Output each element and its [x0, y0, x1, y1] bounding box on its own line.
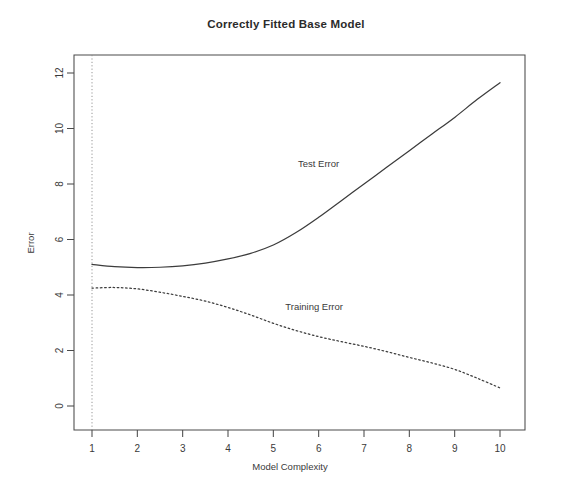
y-tick-label: 12 — [54, 67, 65, 79]
y-axis-ticks: 024681012 — [54, 67, 75, 409]
y-tick-label: 10 — [54, 123, 65, 135]
y-axis-label: Error — [25, 232, 36, 253]
chart-title: Correctly Fitted Base Model — [207, 18, 365, 30]
y-tick-label: 8 — [54, 181, 65, 187]
y-tick-label: 0 — [54, 403, 65, 409]
x-tick-label: 8 — [407, 443, 413, 454]
x-axis-label: Model Complexity — [252, 461, 328, 472]
x-tick-label: 6 — [316, 443, 322, 454]
chart-plot-area: Correctly Fitted Base Model Error Model … — [0, 0, 572, 494]
x-tick-label: 2 — [135, 443, 141, 454]
x-tick-label: 9 — [452, 443, 458, 454]
x-tick-label: 4 — [225, 443, 231, 454]
x-tick-label: 1 — [89, 443, 95, 454]
x-axis-ticks: 12345678910 — [89, 430, 506, 454]
series-annotation: Training Error — [285, 301, 343, 312]
plot-frame — [74, 55, 525, 430]
series-line-test-error — [92, 83, 500, 268]
chart-figure: Correctly Fitted Base Model Error Model … — [0, 0, 572, 494]
y-tick-label: 4 — [54, 292, 65, 298]
x-tick-label: 3 — [180, 443, 186, 454]
x-tick-label: 7 — [361, 443, 367, 454]
y-tick-label: 2 — [54, 347, 65, 353]
y-tick-label: 6 — [54, 236, 65, 242]
x-tick-label: 5 — [271, 443, 277, 454]
series-annotation: Test Error — [298, 158, 339, 169]
x-tick-label: 10 — [494, 443, 506, 454]
series-annotations: Test ErrorTraining Error — [285, 158, 343, 312]
